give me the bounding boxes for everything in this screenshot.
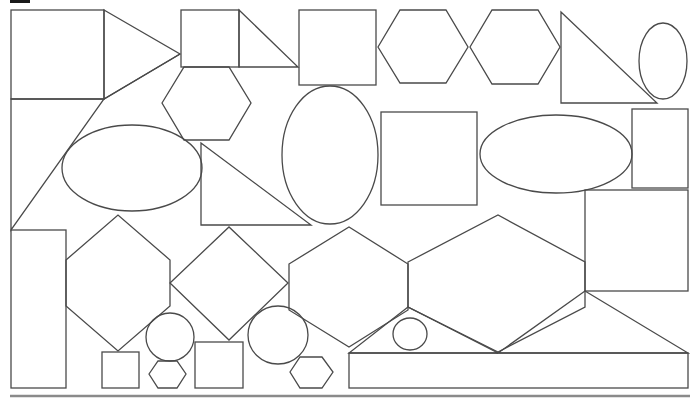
shape-diagram — [0, 0, 699, 399]
rect-right-middle — [585, 190, 688, 291]
ellipse-tall-center — [282, 86, 378, 224]
circle-bottom-2 — [248, 306, 308, 364]
triangle-right-top — [239, 10, 298, 67]
rect-right-small — [632, 109, 688, 188]
rect-bottom-wide — [349, 353, 688, 388]
ellipse-left — [62, 125, 202, 211]
square-center — [381, 112, 477, 205]
hexagon-below-square — [162, 67, 251, 140]
shapes-layer — [11, 10, 688, 388]
hexagon-bottom-small-1 — [149, 361, 186, 388]
ellipse-top-right — [639, 23, 687, 99]
hexagon-top-2 — [470, 10, 560, 84]
triangle-left-large — [11, 99, 104, 230]
diamond-center-left — [170, 227, 288, 340]
ellipse-right — [480, 115, 632, 193]
square-top-left — [11, 10, 104, 99]
circle-bottom-3 — [393, 318, 427, 350]
hexagon-left-large — [66, 215, 170, 351]
square-top-middle — [299, 10, 376, 85]
triangle-bottom-left-small — [349, 307, 498, 353]
square-bottom-1 — [102, 352, 139, 388]
square-bottom-2 — [195, 342, 243, 388]
hexagon-wide-right — [408, 215, 585, 352]
triangle-top-left — [104, 10, 180, 99]
hexagon-top-1 — [378, 10, 468, 83]
square-small-top — [181, 10, 239, 67]
rect-tall-left — [11, 230, 66, 388]
triangle-top-right — [561, 12, 657, 103]
corner-mark — [10, 0, 30, 3]
circle-bottom-1 — [146, 313, 194, 361]
triangle-bottom-right — [498, 291, 688, 353]
hexagon-bottom-small-2 — [290, 357, 333, 388]
triangle-middle — [201, 143, 311, 225]
